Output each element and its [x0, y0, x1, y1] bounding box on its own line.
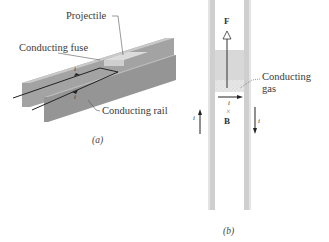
label-field-b: B [224, 117, 230, 126]
current-arrow-right [253, 107, 257, 134]
vertical-rail-left [208, 0, 215, 210]
label-projectile: Projectile [66, 11, 106, 22]
conducting-gas [215, 80, 244, 92]
current-label-left: i [193, 115, 195, 122]
current-label-bottom: i [74, 94, 76, 101]
label-force: F [224, 17, 230, 26]
label-conducting-gas-line1: Conducting [262, 72, 311, 83]
vertical-rail-right [244, 0, 251, 210]
label-conducting-rail: Conducting rail [102, 106, 168, 117]
railgun-diagram [0, 0, 329, 242]
caption-a: (a) [92, 136, 103, 146]
current-arrow-gas [218, 95, 243, 99]
current-label-right: i [258, 118, 260, 125]
label-conducting-fuse: Conducting fuse [19, 43, 88, 54]
current-label-gas: i [228, 100, 230, 107]
label-conducting-gas-line2: gas [262, 84, 276, 95]
field-into-page-symbol: × [226, 108, 231, 116]
projectile-b [215, 50, 244, 80]
current-arrow-left [198, 109, 202, 134]
caption-b: (b) [223, 227, 234, 237]
current-label-top: i [74, 66, 76, 73]
